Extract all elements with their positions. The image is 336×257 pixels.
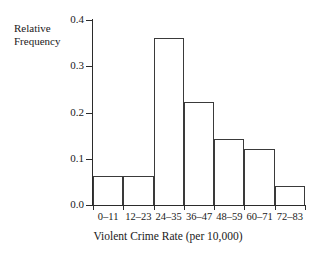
y-axis-tick bbox=[86, 113, 92, 114]
x-axis-tick bbox=[305, 205, 306, 210]
x-axis-tick-label: 72–83 bbox=[277, 211, 303, 222]
bars-layer bbox=[93, 20, 305, 205]
x-axis-tick-label: 24–35 bbox=[156, 211, 182, 222]
y-axis-tick-label: 0.2 bbox=[54, 107, 84, 118]
y-axis-tick-label: 0.1 bbox=[54, 153, 84, 164]
y-axis-tick bbox=[86, 20, 92, 21]
y-axis-tick bbox=[86, 159, 92, 160]
bar bbox=[93, 176, 123, 205]
y-axis-tick-label: 0.3 bbox=[54, 60, 84, 71]
x-axis-tick bbox=[123, 205, 124, 210]
x-axis-tick bbox=[93, 205, 94, 210]
x-axis-tick-label: 36–47 bbox=[186, 211, 212, 222]
x-axis-tick-label: 0–11 bbox=[98, 211, 119, 222]
y-axis-tick-label: 0.0 bbox=[54, 199, 84, 210]
bar bbox=[275, 186, 305, 205]
histogram-figure: Relative Frequency 0.00.10.20.30.4 0–111… bbox=[0, 0, 336, 257]
y-axis-tick bbox=[86, 205, 92, 206]
bar bbox=[123, 176, 153, 205]
x-axis-tick bbox=[214, 205, 215, 210]
bar bbox=[244, 149, 274, 205]
x-axis-tick bbox=[184, 205, 185, 210]
y-axis-tick bbox=[86, 66, 92, 67]
bar bbox=[214, 139, 244, 205]
x-axis-title: Violent Crime Rate (per 10,000) bbox=[0, 230, 336, 243]
bar bbox=[154, 38, 184, 205]
y-axis-title: Relative Frequency bbox=[14, 22, 60, 47]
x-axis-tick-label: 12–23 bbox=[125, 211, 151, 222]
bar bbox=[184, 102, 214, 205]
x-axis-tick bbox=[154, 205, 155, 210]
x-axis-tick-label: 60–71 bbox=[246, 211, 272, 222]
x-axis-tick bbox=[275, 205, 276, 210]
y-axis-tick-label: 0.4 bbox=[54, 14, 84, 25]
y-axis-title-line-2: Frequency bbox=[14, 35, 60, 48]
x-axis-tick-label: 48–59 bbox=[216, 211, 242, 222]
x-axis-tick bbox=[244, 205, 245, 210]
